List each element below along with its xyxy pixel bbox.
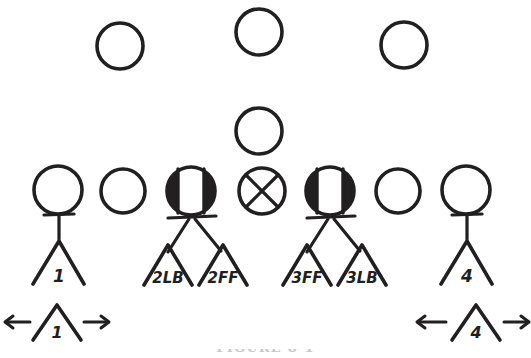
movement-left-label: 1 [51,323,62,342]
defender-2-leg-right-icon [195,219,221,251]
line-1-circle-icon [34,166,82,214]
defender-3-tbar-icon [307,216,355,218]
movement-right-arrow-right-icon [504,316,529,328]
movement-right-label: 4 [469,323,481,342]
mid-center-circle-icon [236,108,282,154]
line-3-half-filled-circle-icon [167,166,215,216]
defender-1-group: 1 [33,214,84,286]
back-right-circle-icon [381,22,427,68]
defender-4-chevron-label: 4 [460,266,473,286]
defender-2ff-label: 2FF [208,269,240,287]
movement-right-arrow-left-icon [417,316,446,328]
defender-3lb-label: 3LB [346,269,377,287]
line-6-circle-icon [376,169,420,213]
movement-left-group: 1 [5,305,109,342]
defender-3ff-label: 3FF [292,269,324,287]
back-row-group [97,9,427,69]
defender-3-group: 3FF 3LB [283,216,386,287]
mid-row-group [236,108,282,154]
defender-2-group: 2LB 2FF [144,216,247,287]
defender-2-tbar-icon [168,216,216,218]
movement-left-arrow-left-icon [5,316,30,328]
defender-1-chevron-label: 1 [53,266,65,286]
formation-diagram: 1 2LB 2FF 3FF 3LB 4 [0,0,531,358]
line-row-group [34,166,490,216]
line-7-circle-icon [442,166,490,214]
line-4-x-circle-icon [239,168,285,214]
back-center-circle-icon [236,9,282,55]
line-5-half-filled-circle-icon [306,166,354,216]
diagram-canvas: 1 2LB 2FF 3FF 3LB 4 [0,0,531,358]
movement-right-group: 4 [417,305,529,342]
figure-caption: FIGURE 8-1 [0,349,531,355]
defender-3-leg-right-icon [334,219,360,251]
defender-4-group: 4 [441,214,492,286]
figure-caption-clip: FIGURE 8-1 [0,349,531,358]
back-left-circle-icon [97,23,143,69]
defender-2lb-label: 2LB [152,269,183,287]
line-2-circle-icon [101,169,145,213]
movement-left-arrow-right-icon [84,316,109,328]
